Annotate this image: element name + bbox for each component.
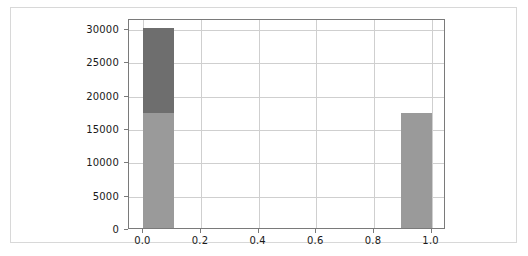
x-tick-label: 0.4 bbox=[249, 235, 266, 246]
figure-card: 050001000015000200002500030000 0.00.20.4… bbox=[10, 7, 517, 243]
bar-at-zero bbox=[143, 18, 173, 228]
y-tick-label: 25000 bbox=[86, 57, 119, 68]
gridline-horizontal bbox=[129, 130, 444, 131]
gridline-vertical bbox=[201, 20, 202, 228]
gridline-horizontal bbox=[129, 30, 444, 31]
bar-segment-lower bbox=[143, 113, 173, 228]
gridline-horizontal bbox=[129, 97, 444, 98]
gridline-vertical bbox=[432, 20, 433, 228]
axes-frame bbox=[128, 19, 445, 229]
gridline-vertical bbox=[316, 20, 317, 228]
y-tick-label: 15000 bbox=[86, 124, 119, 135]
y-tick-label: 20000 bbox=[86, 90, 119, 101]
x-tick-label: 1.0 bbox=[422, 235, 439, 246]
x-tick-mark bbox=[373, 229, 374, 233]
x-tick-label: 0.8 bbox=[365, 235, 382, 246]
bar-at-one bbox=[401, 18, 431, 228]
x-tick-mark bbox=[431, 229, 432, 233]
plot-region: 050001000015000200002500030000 0.00.20.4… bbox=[11, 8, 516, 242]
gridline-vertical bbox=[374, 20, 375, 228]
y-tick-label: 5000 bbox=[93, 190, 119, 201]
gridline-horizontal bbox=[129, 63, 444, 64]
y-tick-label: 10000 bbox=[86, 157, 119, 168]
bar-segment-lower bbox=[401, 113, 431, 228]
x-tick-label: 0.6 bbox=[307, 235, 324, 246]
y-tick-mark bbox=[124, 229, 128, 230]
x-tick-mark bbox=[315, 229, 316, 233]
y-tick-label: 30000 bbox=[86, 24, 119, 35]
x-tick-label: 0.2 bbox=[192, 235, 209, 246]
bar-segment-upper bbox=[143, 28, 173, 113]
gridline-horizontal bbox=[129, 197, 444, 198]
y-tick-label: 0 bbox=[112, 224, 119, 235]
gridline-vertical bbox=[259, 20, 260, 228]
x-tick-mark bbox=[200, 229, 201, 233]
x-tick-label: 0.0 bbox=[134, 235, 151, 246]
x-tick-mark bbox=[142, 229, 143, 233]
x-tick-mark bbox=[258, 229, 259, 233]
gridline-horizontal bbox=[129, 163, 444, 164]
